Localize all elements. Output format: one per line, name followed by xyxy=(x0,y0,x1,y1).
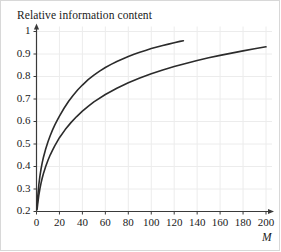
y-tick-label: 0.6 xyxy=(7,114,31,126)
y-tick-label: 0.5 xyxy=(7,137,31,149)
plot-area xyxy=(0,0,281,252)
y-tick-label: 0.7 xyxy=(7,92,31,104)
y-tick-label: 0.2 xyxy=(7,204,31,216)
chart-figure: Relative information content 0.20.30.40.… xyxy=(0,0,281,252)
axis-ticks xyxy=(34,32,267,215)
x-tick-label: 200 xyxy=(253,216,279,228)
gridlines xyxy=(37,27,273,212)
y-tick-label: 0.3 xyxy=(7,182,31,194)
y-tick-label: 1 xyxy=(7,24,31,36)
y-tick-label: 0.9 xyxy=(7,47,31,59)
y-tick-label: 0.8 xyxy=(7,69,31,81)
y-tick-label: 0.4 xyxy=(7,159,31,171)
x-axis-title: M xyxy=(262,231,272,243)
